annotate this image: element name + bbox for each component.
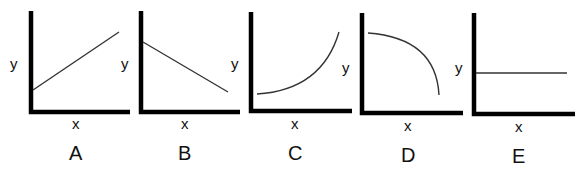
panel-c-axes [251, 12, 352, 111]
panel-a-axes [31, 11, 130, 112]
panel-d-x-label: x [404, 117, 412, 134]
panel-d-letter: D [401, 144, 415, 166]
panel-b-x-label: x [181, 115, 189, 132]
panel-c-curve [257, 32, 339, 94]
panel-d-axes [362, 13, 463, 113]
panel-a-x-label: x [72, 115, 80, 132]
panel-d-curve [368, 33, 439, 95]
panel-b-axes [141, 11, 240, 112]
panel-c-x-label: x [291, 115, 299, 132]
panel-b-letter: B [178, 142, 191, 164]
panel-e-letter: E [512, 145, 525, 167]
graph-panels: y x A y x B y x C y x D y x E [0, 0, 585, 171]
panel-b-line [143, 42, 228, 92]
panel-b-y-label: y [121, 55, 129, 72]
panel-a-letter: A [69, 142, 83, 164]
panel-a: y x A [10, 11, 130, 164]
panel-c: y x C [231, 12, 352, 164]
panel-e-axes [474, 13, 575, 114]
panel-e-x-label: x [515, 118, 523, 135]
panel-e: y x E [455, 13, 575, 167]
panel-a-line [33, 32, 119, 90]
panel-d-y-label: y [342, 59, 350, 76]
panel-c-y-label: y [231, 55, 239, 72]
panel-e-y-label: y [455, 59, 463, 76]
panel-b: y x B [121, 11, 240, 164]
panel-d: y x D [342, 13, 463, 166]
panel-a-y-label: y [10, 55, 18, 72]
panel-c-letter: C [288, 142, 302, 164]
